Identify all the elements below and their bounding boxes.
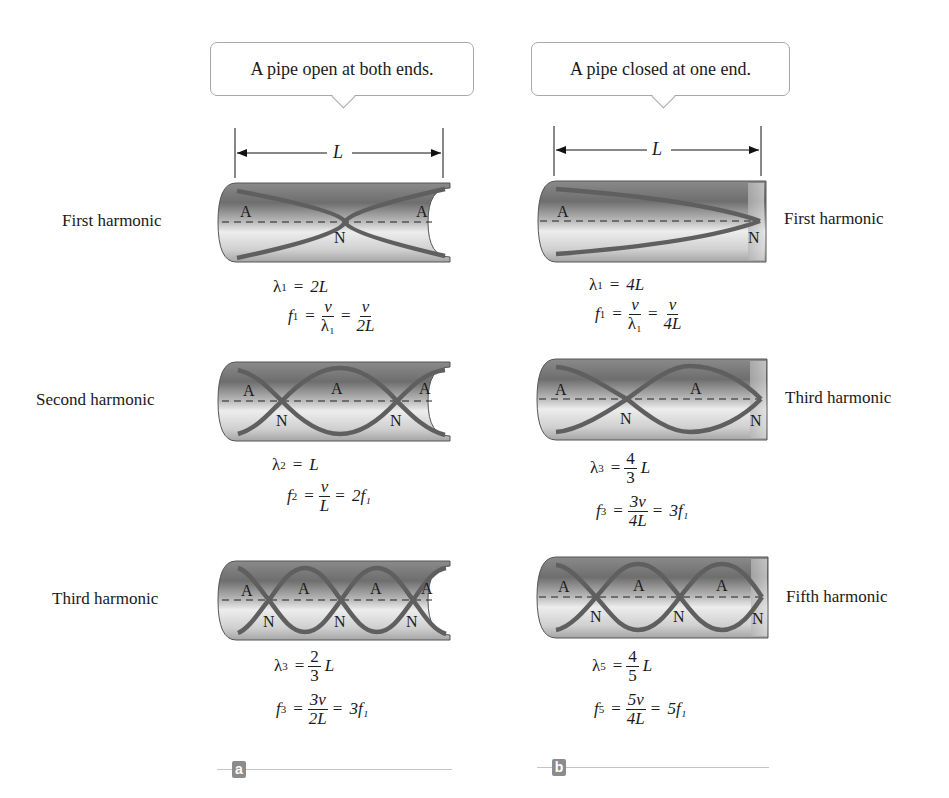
open-pipe-1 bbox=[218, 183, 450, 262]
frequency-eq-closed-2: f3 = 3v4L = 3f₁ bbox=[596, 493, 689, 530]
closed-pipe-3 bbox=[537, 557, 768, 638]
antinode-label: A bbox=[557, 203, 569, 221]
harmonic-label-open-2: Second harmonic bbox=[36, 390, 155, 410]
antinode-label: A bbox=[416, 203, 428, 221]
node-label: N bbox=[406, 613, 418, 631]
panel-tag-a: a bbox=[232, 761, 246, 778]
node-label: N bbox=[590, 608, 602, 626]
wavelength-eq-open-3: λ3 = 23 L bbox=[274, 648, 334, 685]
closed-pipe-1 bbox=[538, 181, 766, 262]
node-label: N bbox=[334, 613, 346, 631]
wavelength-eq-open-2: λ2 = L bbox=[272, 455, 319, 475]
length-label-open: L bbox=[333, 142, 343, 163]
node-label: N bbox=[390, 412, 402, 430]
harmonic-label-closed-1: First harmonic bbox=[784, 209, 884, 229]
antinode-label: A bbox=[370, 580, 382, 598]
antinode-label: A bbox=[633, 577, 645, 595]
antinode-label: A bbox=[555, 381, 567, 399]
frequency-eq-closed-3: f5 = 5v4L = 5f₁ bbox=[594, 691, 687, 728]
node-label: N bbox=[752, 610, 764, 628]
harmonic-label-open-1: First harmonic bbox=[62, 211, 162, 231]
frequency-eq-open-1: f1 = vλ₁ = v2L bbox=[288, 298, 381, 335]
wavelength-eq-closed-2: λ3 = 43 L bbox=[590, 450, 650, 487]
node-label: N bbox=[673, 608, 685, 626]
antinode-label: A bbox=[331, 380, 343, 398]
panel-a-rule bbox=[217, 769, 452, 770]
antinode-label: A bbox=[241, 582, 253, 600]
node-label: N bbox=[263, 613, 275, 631]
antinode-label: A bbox=[240, 203, 252, 221]
node-label: N bbox=[334, 229, 346, 247]
antinode-label: A bbox=[243, 382, 255, 400]
closed-pipe-2 bbox=[537, 359, 767, 440]
frequency-eq-closed-1: f1 = vλ₁ = v4L bbox=[595, 296, 688, 333]
antinode-label: A bbox=[716, 577, 728, 595]
frequency-eq-open-2: f2 = vL = 2f₁ bbox=[287, 478, 371, 515]
open-pipe-2 bbox=[218, 362, 450, 441]
antinode-label: A bbox=[690, 380, 702, 398]
antinode-label: A bbox=[419, 380, 431, 398]
antinode-label: A bbox=[421, 580, 433, 598]
node-label: N bbox=[620, 410, 632, 428]
wavelength-eq-closed-1: λ1 = 4L bbox=[589, 275, 644, 295]
node-label: N bbox=[748, 229, 760, 247]
node-label: N bbox=[276, 412, 288, 430]
wavelength-eq-closed-3: λ5 = 45 L bbox=[592, 648, 652, 685]
panel-b-rule bbox=[537, 767, 769, 768]
harmonic-label-closed-2: Third harmonic bbox=[785, 388, 891, 408]
panel-tag-b: b bbox=[552, 759, 566, 776]
harmonic-label-closed-3: Fifth harmonic bbox=[786, 587, 888, 607]
frequency-eq-open-3: f3 = 3v2L = 3f₁ bbox=[276, 691, 369, 728]
antinode-label: A bbox=[558, 578, 570, 596]
length-label-closed: L bbox=[652, 139, 662, 160]
harmonic-label-open-3: Third harmonic bbox=[52, 589, 158, 609]
node-label: N bbox=[750, 412, 762, 430]
antinode-label: A bbox=[298, 580, 310, 598]
wavelength-eq-open-1: λ1 = 2L bbox=[273, 277, 328, 297]
